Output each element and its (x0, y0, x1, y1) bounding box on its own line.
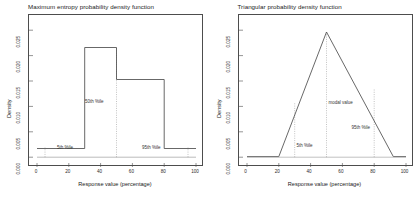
panel-b-yaxis-title: Density (216, 99, 222, 118)
panel-b-plot-svg (239, 15, 414, 167)
panel-a-ytick-3: 0.015 (16, 84, 21, 98)
panel-a-plot-svg (29, 15, 204, 167)
figure-container: Maximum entropy probability density func… (0, 0, 419, 199)
panel-a-ytick-2: 0.010 (16, 110, 21, 124)
panel-a-ytick-5: 0.025 (16, 34, 21, 48)
panel-b-xtick-4: 80 (370, 169, 375, 174)
panel-a-xtick-3: 60 (129, 169, 134, 174)
panel-a-xtick-0: 0 (35, 169, 38, 174)
panel-b-xtick-2: 40 (307, 169, 312, 174)
panel-a-xtick-2: 40 (97, 169, 102, 174)
panel-a: Maximum entropy probability density func… (0, 0, 210, 199)
panel-b-title: Triangular probability density function (238, 3, 342, 10)
panel-a-plot-area: 5th %ile 50th %ile 95th %ile (28, 14, 203, 166)
panel-b-ytick-0: 0.000 (225, 161, 230, 175)
panel-b-xtick-3: 60 (338, 169, 343, 174)
panel-b-xtick-1: 20 (275, 169, 280, 174)
panel-a-ytick-0: 0.000 (16, 161, 21, 175)
panel-b-ytick-2: 0.010 (225, 110, 230, 124)
panel-a-tickmarks (29, 30, 196, 167)
panel-a-xtick-4: 80 (161, 169, 166, 174)
panel-a-xtick-1: 20 (65, 169, 70, 174)
panel-b-ytick-3: 0.015 (225, 84, 230, 98)
panel-a-ytick-1: 0.005 (16, 135, 21, 149)
panel-b-xtick-5: 100 (401, 169, 409, 174)
panel-b-reference-lines (294, 32, 374, 157)
panel-b-ytick-5: 0.025 (225, 34, 230, 48)
panel-a-annot-95th: 95th %ile (142, 145, 161, 150)
panel-b-xtick-0: 0 (244, 169, 247, 174)
panel-a-ytick-4: 0.020 (16, 59, 21, 73)
panel-b-plot-area: 5th %ile modal value 95th %ile (238, 14, 413, 166)
panel-a-annot-5th: 5th %ile (57, 145, 73, 150)
panel-a-yaxis-title: Density (6, 99, 12, 118)
panel-b-ytick-1: 0.005 (225, 135, 230, 149)
panel-b-xaxis-title: Response value (percentage) (288, 181, 361, 187)
panel-b-ytick-4: 0.020 (225, 59, 230, 73)
panel-b-annot-95th: 95th %ile (352, 125, 371, 130)
panel-a-title: Maximum entropy probability density func… (28, 3, 154, 10)
panel-a-xtick-5: 100 (191, 169, 199, 174)
panel-a-xaxis-title: Response value (percentage) (78, 181, 151, 187)
panel-b: Triangular probability density function … (210, 0, 419, 199)
panel-b-annot-mode: modal value (329, 100, 353, 105)
panel-b-annot-5th: 5th %ile (297, 143, 313, 148)
panel-b-tickmarks (239, 30, 406, 167)
panel-a-annot-50th: 50th %ile (85, 99, 104, 104)
